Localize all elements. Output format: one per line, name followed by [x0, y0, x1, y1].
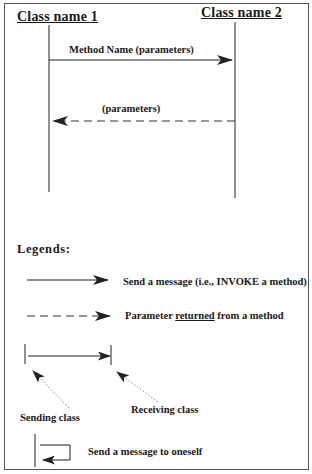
- pointer-sending-class: [33, 371, 69, 408]
- legend-sender-receiver-icon: [25, 344, 111, 365]
- legend-self-message-icon: [35, 434, 70, 467]
- pointer-receiving-class: [117, 372, 158, 402]
